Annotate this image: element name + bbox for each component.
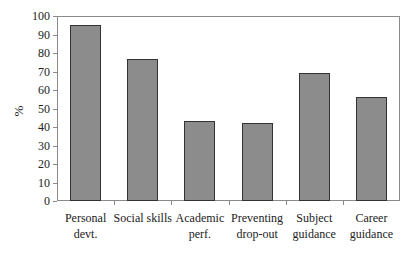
y-tick-label: 20 [20, 158, 50, 170]
y-tick-label: 80 [20, 47, 50, 59]
x-tick-mark [286, 201, 287, 205]
bar [70, 25, 101, 201]
x-tick-mark [229, 201, 230, 205]
y-tick-label: 50 [20, 103, 50, 115]
x-tick-label: Subject guidance [284, 210, 344, 242]
y-tick-label: 70 [20, 66, 50, 78]
x-tick-label: Academic perf. [170, 210, 230, 242]
x-tick-mark [114, 201, 115, 205]
bar [356, 97, 387, 201]
y-tick-label: 100 [20, 10, 50, 22]
x-tick-mark [171, 201, 172, 205]
x-tick-mark [343, 201, 344, 205]
x-tick-label: Social skills [113, 210, 173, 226]
bar-chart: % 0102030405060708090100 Personal devt.S… [0, 0, 419, 256]
y-tick-label: 0 [20, 195, 50, 207]
y-tick-label: 40 [20, 121, 50, 133]
x-tick-label: Personal devt. [56, 210, 116, 242]
x-tick-label: Preventing drop-out [227, 210, 287, 242]
bar [242, 123, 273, 201]
plot-area [57, 16, 400, 201]
bar [127, 59, 158, 201]
y-tick-label: 10 [20, 177, 50, 189]
y-tick-label: 60 [20, 84, 50, 96]
bar [184, 121, 215, 201]
y-tick-label: 30 [20, 140, 50, 152]
bar [299, 73, 330, 201]
x-tick-label: Career guidance [341, 210, 401, 242]
y-tick-label: 90 [20, 29, 50, 41]
y-tick-mark [53, 201, 57, 202]
